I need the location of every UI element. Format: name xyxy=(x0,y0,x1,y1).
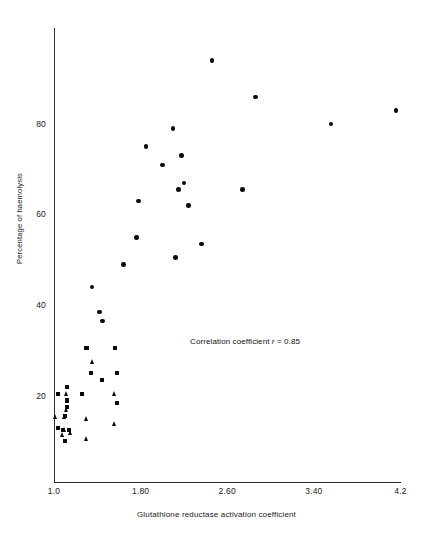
data-point-triangle xyxy=(53,414,57,419)
y-tick-label: 20 xyxy=(20,392,46,401)
data-point-circle xyxy=(144,144,149,149)
data-point-circle xyxy=(171,126,176,131)
data-point-triangle xyxy=(112,421,116,426)
data-point-circle xyxy=(210,58,215,63)
data-point-square xyxy=(84,346,88,350)
data-point-circle xyxy=(173,255,178,260)
data-point-triangle xyxy=(68,430,72,435)
data-point-square xyxy=(56,392,60,396)
data-point-square xyxy=(63,439,67,443)
data-point-square xyxy=(65,385,69,389)
y-tick-label: 60 xyxy=(20,210,46,219)
data-point-triangle xyxy=(112,391,116,396)
data-point-square xyxy=(113,346,117,350)
x-tick-label: 2.60 xyxy=(219,487,236,496)
annotation-suffix: = 0.85 xyxy=(275,337,300,346)
data-point-square xyxy=(115,371,119,375)
data-point-triangle xyxy=(64,407,68,412)
annotation-prefix: Correlation coefficient xyxy=(190,337,272,346)
data-point-square xyxy=(115,401,119,405)
x-tick-label: 1.80 xyxy=(132,487,149,496)
data-point-square xyxy=(100,378,104,382)
data-point-circle xyxy=(90,285,95,290)
data-point-triangle xyxy=(84,436,88,441)
data-point-circle xyxy=(186,203,191,208)
data-point-square xyxy=(65,398,69,402)
data-point-triangle xyxy=(62,414,66,419)
data-point-circle xyxy=(134,235,139,240)
scatter-plot-figure: 20406080 1.01.802.603.404.2 Correlation … xyxy=(0,0,433,544)
correlation-annotation: Correlation coefficient r = 0.85 xyxy=(190,337,300,346)
data-point-square xyxy=(89,371,93,375)
data-point-circle xyxy=(100,319,105,324)
data-point-circle xyxy=(160,163,165,168)
x-tick-label: 3.40 xyxy=(305,487,322,496)
data-point-square xyxy=(80,392,84,396)
y-tick-label: 40 xyxy=(20,301,46,310)
data-point-triangle xyxy=(84,416,88,421)
y-tick-label: 80 xyxy=(20,120,46,129)
data-point-circle xyxy=(121,262,126,267)
data-point-circle xyxy=(182,181,187,186)
x-axis-line xyxy=(54,482,401,483)
data-point-circle xyxy=(176,187,181,192)
data-point-triangle xyxy=(90,359,94,364)
data-point-circle xyxy=(97,310,102,315)
y-axis-title: Percentage of haemolysis xyxy=(15,124,24,314)
x-tick-label: 4.2 xyxy=(394,487,406,496)
data-point-circle xyxy=(179,153,184,158)
data-point-circle xyxy=(136,199,141,204)
x-tick-label: 1.0 xyxy=(48,487,60,496)
data-point-triangle xyxy=(64,391,68,396)
data-point-circle xyxy=(394,108,399,113)
data-point-circle xyxy=(240,187,245,192)
data-point-circle xyxy=(253,95,258,100)
x-axis-title: Glutathione reductase activation coeffic… xyxy=(0,510,433,519)
data-point-circle xyxy=(199,242,204,247)
data-point-circle xyxy=(329,122,334,127)
data-point-triangle xyxy=(60,432,64,437)
